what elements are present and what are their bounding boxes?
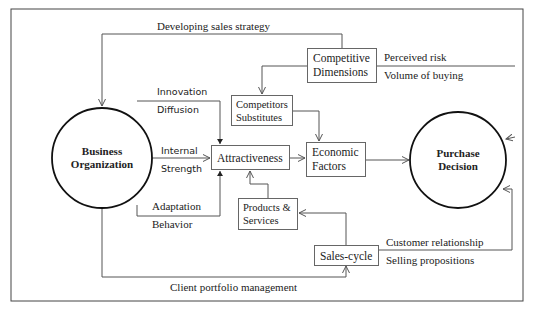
- label-behavior: Behavior: [152, 218, 192, 231]
- purchase-decision-line1: Purchase: [418, 147, 498, 160]
- competitors-substitutes-line2: Substitutes: [236, 111, 288, 124]
- business-organization-label: Business Organization: [62, 145, 142, 171]
- products-services-box: Products & Services: [238, 198, 298, 230]
- sales-cycle-label: Sales-cycle: [320, 249, 373, 263]
- competitive-dimensions-line1: Competitive: [313, 51, 371, 65]
- sales-cycle-box: Sales-cycle: [314, 245, 379, 266]
- label-perceived-risk: Perceived risk: [384, 51, 447, 64]
- attractiveness-label: Attractiveness: [217, 151, 284, 165]
- label-innovation: Innovation: [157, 85, 207, 98]
- label-customer-relationship: Customer relationship: [386, 236, 483, 249]
- products-services-line1: Products &: [243, 201, 293, 214]
- label-internal: Internal: [161, 144, 198, 157]
- purchase-decision-label: Purchase Decision: [418, 147, 498, 173]
- label-volume-of-buying: Volume of buying: [384, 69, 463, 82]
- edge-competitors-to-economic: [293, 111, 319, 141]
- label-strength: Strength: [161, 162, 202, 175]
- business-organization-line2: Organization: [62, 158, 142, 171]
- label-adaptation: Adaptation: [152, 200, 201, 213]
- competitive-dimensions-box: Competitive Dimensions: [307, 48, 377, 83]
- products-services-line2: Services: [243, 214, 293, 227]
- edge-client-portfolio: [102, 208, 346, 277]
- edge-products-to-attractiveness: [250, 171, 268, 198]
- edge-developing-sales-strategy: [102, 34, 342, 106]
- competitors-substitutes-line1: Competitors: [236, 98, 288, 111]
- label-diffusion: Diffusion: [157, 103, 199, 116]
- edge-competitive-to-competitors: [262, 66, 307, 94]
- economic-factors-line1: Economic: [312, 145, 360, 159]
- economic-factors-line2: Factors: [312, 159, 360, 173]
- label-client-portfolio-management: Client portfolio management: [170, 281, 297, 294]
- competitive-dimensions-line2: Dimensions: [313, 65, 371, 79]
- business-organization-line1: Business: [62, 145, 142, 158]
- edge-purchase-feedback: [506, 137, 515, 139]
- competitors-substitutes-box: Competitors Substitutes: [231, 95, 293, 126]
- attractiveness-box: Attractiveness: [211, 145, 290, 170]
- label-developing-sales-strategy: Developing sales strategy: [157, 20, 270, 33]
- economic-factors-box: Economic Factors: [306, 142, 366, 177]
- edge-sales-cycle-to-products: [299, 213, 346, 245]
- label-selling-propositions: Selling propositions: [386, 254, 474, 267]
- diagram-canvas: Business Organization Purchase Decision …: [0, 0, 535, 315]
- purchase-decision-line2: Decision: [418, 160, 498, 173]
